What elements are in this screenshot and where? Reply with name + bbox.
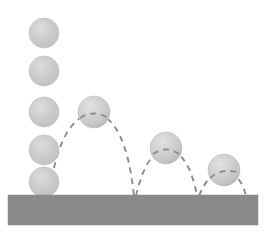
free-fall-sphere-column xyxy=(29,18,59,197)
drop-sphere-4 xyxy=(29,135,59,165)
bounce-apex-spheres xyxy=(78,96,240,186)
ground-surface xyxy=(8,195,258,225)
bounce-sphere-1 xyxy=(78,96,110,128)
drop-sphere-1 xyxy=(29,18,59,48)
drop-sphere-5 xyxy=(29,167,59,197)
bouncing-ball-diagram xyxy=(0,0,267,242)
drop-sphere-3 xyxy=(29,97,59,127)
drop-sphere-2 xyxy=(29,56,59,86)
bounce-sphere-2 xyxy=(150,132,182,164)
bounce-sphere-3 xyxy=(208,154,240,186)
diagram-canvas xyxy=(0,0,267,242)
